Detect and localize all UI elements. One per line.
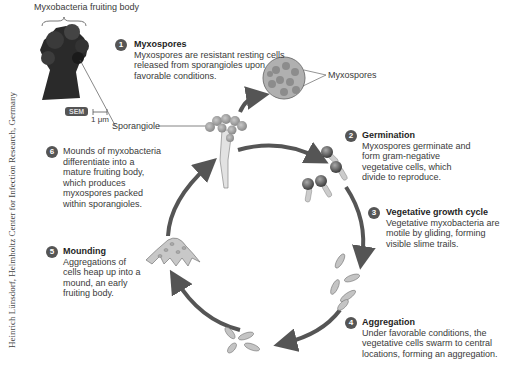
myxospores-label: Myxospores xyxy=(328,70,377,81)
fruiting-body-sem-image xyxy=(40,24,89,100)
step-2-description: Myxospores germinate and form gram-negat… xyxy=(362,141,471,183)
bracket xyxy=(42,17,86,26)
cycle-arrows xyxy=(168,146,363,344)
step-4-title: Aggregation xyxy=(362,317,504,328)
sporangiole-label: Sporangiole xyxy=(112,121,160,132)
step-5-title: Mounding xyxy=(63,246,143,257)
step-6-text: Mounds of myxobacteria differentiate int… xyxy=(63,146,163,209)
step-1-badge: 1 xyxy=(115,39,127,51)
step-3-badge: 3 xyxy=(368,207,380,219)
step-2-badge: 2 xyxy=(345,130,357,142)
step-5-text: Mounding Aggregations of cells heap up i… xyxy=(63,246,143,299)
step-3-title: Vegetative growth cycle xyxy=(386,207,506,218)
fruiting-body-label: Myxobacteria fruiting body xyxy=(34,2,139,13)
step-4-badge: 4 xyxy=(345,317,357,329)
step-1-description: Myxospores are resistant resting cells r… xyxy=(134,50,285,81)
aggregating-cells xyxy=(223,326,260,355)
sem-badge: SEM xyxy=(65,107,88,116)
step-4-text: Aggregation Under favorable conditions, … xyxy=(362,317,504,359)
scale-bar-label: 1 μm xyxy=(91,115,109,126)
photo-credit: Heinrich Lünsdorf, Helmholtz Center for … xyxy=(7,90,17,350)
vegetative-cells xyxy=(329,253,361,312)
step-4-description: Under favorable conditions, the vegetati… xyxy=(362,328,498,359)
step-2-text: Germination Myxospores germinate and for… xyxy=(362,130,477,183)
step-5-description: Aggregations of cells heap up into a mou… xyxy=(63,257,141,299)
step-1-text: Myxospores Myxospores are resistant rest… xyxy=(134,39,294,81)
step-1-title: Myxospores xyxy=(134,39,294,50)
mound-illustration xyxy=(146,238,200,266)
step-6-description: Mounds of myxobacteria differentiate int… xyxy=(63,146,161,209)
step-5-badge: 5 xyxy=(46,246,58,258)
step-6-badge: 6 xyxy=(46,146,58,158)
step-2-title: Germination xyxy=(362,130,477,141)
step-3-text: Vegetative growth cycle Vegetative myxob… xyxy=(386,207,506,249)
step-3-description: Vegetative myxobacteria are motile by gl… xyxy=(386,218,500,249)
